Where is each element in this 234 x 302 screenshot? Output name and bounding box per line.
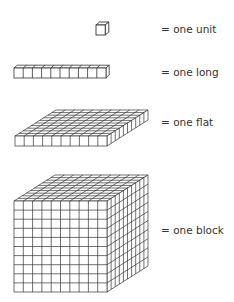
block-cube [14,175,148,292]
long-label: = one long [161,66,219,78]
long-rod [14,65,109,78]
unit-front-face [96,25,105,35]
block-label: = one block [161,224,224,236]
base-ten-blocks-diagram [0,0,234,302]
long-side-face [106,65,109,78]
flat-square [15,110,148,146]
unit-label: = one unit [161,23,216,35]
flat-label: = one flat [161,116,213,128]
unit-cube [96,22,109,35]
